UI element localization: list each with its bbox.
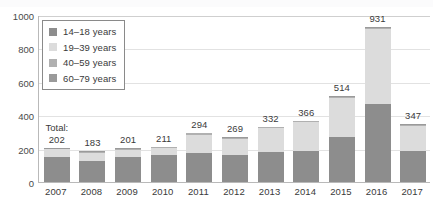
bar-segment [329,137,355,182]
x-axis-label-2017: 2017 [401,186,423,197]
bar-segment [293,122,319,151]
y-axis-tick-label: 0 [0,178,34,189]
bar-segment [329,98,355,137]
bar-segment [115,157,141,182]
bar-total-label: 211 [156,133,171,144]
x-axis-label-2013: 2013 [259,186,281,197]
bar-2013[interactable] [258,127,284,182]
x-axis-label-2008: 2008 [81,186,103,197]
bar-total-label: 347 [405,110,421,121]
legend-swatch-icon [49,28,57,36]
bar-total-label: 294 [191,119,207,130]
legend-item-label: 14–18 years [63,26,116,37]
legend: 14–18 years19–39 years40–59 years60–79 y… [42,20,125,90]
legend-swatch-icon [49,59,57,67]
bar-2016[interactable] [365,27,391,182]
bar-2015[interactable] [329,96,355,182]
bar-total-label: 931 [369,13,385,24]
total-prefix-label: Total: [45,122,68,133]
y-axis-tick-label: 800 [0,44,34,55]
bar-segment [79,161,105,182]
y-axis-tick-label: 400 [0,111,34,122]
bar-segment [258,128,284,152]
y-axis-tick-label: 1000 [0,11,34,22]
bar-segment [293,151,319,182]
bar-total-label: 269 [227,123,243,134]
bar-2011[interactable] [186,133,212,182]
legend-item-3[interactable]: 60–79 years [49,73,116,84]
bar-segment [400,126,426,151]
x-axis-label-2009: 2009 [116,186,138,197]
bar-segment [365,29,391,103]
bar-segment [258,152,284,182]
y-axis-tick-label: 600 [0,77,34,88]
x-axis-label-2012: 2012 [223,186,245,197]
legend-item-0[interactable]: 14–18 years [49,26,116,37]
bar-2014[interactable] [293,121,319,182]
y-axis: 02004006008001000 [0,0,34,167]
legend-item-label: 19–39 years [63,42,116,53]
x-axis-label-2015: 2015 [330,186,352,197]
bar-total-label: 366 [298,107,314,118]
bar-segment [400,151,426,182]
x-axis-label-2016: 2016 [366,186,388,197]
bar-segment [186,153,212,182]
bar-2012[interactable] [222,137,248,182]
scan-artifact-strip [0,0,433,7]
bar-total-label: 202 [49,134,65,145]
legend-item-label: 40–59 years [63,57,116,68]
bar-2017[interactable] [400,124,426,182]
x-axis-label-2007: 2007 [45,186,67,197]
x-axis-label-2014: 2014 [294,186,316,197]
bar-total-label: 332 [263,113,279,124]
legend-swatch-icon [49,74,57,82]
bar-total-label: 514 [334,82,350,93]
stacked-bar-chart: 02004006008001000 202Total:1832012112942… [0,0,433,209]
bar-segment [115,150,141,158]
x-axis: 2007200820092010201120122013201420152016… [38,186,430,202]
bar-segment [222,155,248,182]
bar-segment [186,135,212,154]
y-axis-tick-label: 200 [0,144,34,155]
bar-total-label: 183 [84,137,100,148]
bar-segment [44,149,70,156]
bar-2009[interactable] [115,148,141,182]
bar-segment [222,139,248,156]
bar-segment [365,104,391,182]
legend-swatch-icon [49,43,57,51]
bar-2007[interactable] [44,148,70,182]
legend-item-1[interactable]: 19–39 years [49,42,116,53]
bar-segment [44,157,70,182]
legend-item-label: 60–79 years [63,73,116,84]
bar-segment [151,155,177,182]
bar-2010[interactable] [151,147,177,182]
bar-segment [151,148,177,155]
bar-total-label: 201 [120,134,136,145]
bar-2008[interactable] [79,151,105,182]
x-axis-label-2011: 2011 [188,186,209,197]
legend-item-2[interactable]: 40–59 years [49,57,116,68]
x-axis-label-2010: 2010 [152,186,174,197]
bar-segment [79,153,105,161]
